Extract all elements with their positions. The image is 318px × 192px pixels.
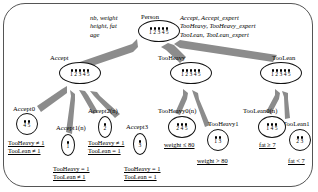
slot: 1 bbox=[149, 30, 153, 36]
node-label-person: Person bbox=[141, 13, 159, 20]
slot: 4 bbox=[82, 72, 86, 78]
node-accept1-slots: 1 bbox=[66, 144, 70, 150]
node-label-toolean: TooLean bbox=[272, 54, 295, 61]
slot: 5 bbox=[87, 72, 91, 78]
slot: 3 bbox=[138, 143, 142, 149]
node-accept3[interactable]: 3 bbox=[133, 133, 147, 155]
header-right-line-1: Accept, Accept_expert bbox=[180, 14, 256, 22]
slot: 3 bbox=[300, 139, 304, 145]
node-person-slots: 12345 bbox=[149, 30, 169, 36]
header-left-line-3: age bbox=[90, 31, 117, 39]
condition-accept0: TooHeavy ≠ 1 TooLean ≠ 1 bbox=[8, 139, 44, 155]
node-toolean0[interactable]: 145 bbox=[258, 116, 286, 138]
arrow-toolean-to-person bbox=[174, 40, 277, 62]
condition-tooheavy1: weight > 80 bbox=[197, 157, 228, 165]
node-tooheavy0[interactable]: 245 bbox=[168, 116, 196, 138]
condition-accept0-line-2: TooLean ≠ 1 bbox=[8, 147, 44, 155]
slot: 2 bbox=[275, 72, 279, 78]
slot: 1 bbox=[181, 72, 185, 78]
slot: 1 bbox=[214, 139, 218, 145]
header-left-attributes: nb, weight height, fat age bbox=[90, 14, 117, 39]
node-accept0-slots: 45 bbox=[23, 123, 31, 129]
slot: 3 bbox=[78, 72, 82, 78]
node-accept1[interactable]: 1 bbox=[61, 134, 75, 156]
node-label-accept: Accept bbox=[50, 54, 69, 61]
node-label-accept2: Accept2(n) bbox=[88, 107, 118, 114]
slot: 5 bbox=[184, 126, 188, 132]
condition-toolean0-line-1: fat ≥ 7 bbox=[259, 141, 276, 149]
condition-accept0-line-1: TooHeavy ≠ 1 bbox=[8, 139, 44, 147]
condition-tooheavy0: weight ≤ 80 bbox=[164, 141, 195, 149]
node-label-toolean1: TooLean1 bbox=[283, 120, 310, 127]
slot: 5 bbox=[288, 72, 292, 78]
slot: 2 bbox=[296, 139, 300, 145]
node-accept3-slots: 3 bbox=[138, 143, 142, 149]
node-toolean-slots: 12345 bbox=[271, 72, 291, 78]
slot: 1 bbox=[66, 144, 70, 150]
slot: 4 bbox=[283, 72, 287, 78]
header-right-line-3: TooLean, TooLean_expert bbox=[180, 31, 256, 39]
condition-accept3: TooHeavy = 1 TooLean = 1 bbox=[124, 165, 161, 181]
node-label-accept0: Accept0 bbox=[13, 105, 35, 112]
slot: 4 bbox=[193, 72, 197, 78]
node-toolean1[interactable]: 23 bbox=[289, 129, 311, 151]
slot: 2 bbox=[74, 72, 78, 78]
node-tooheavy-slots: 12345 bbox=[181, 72, 201, 78]
node-tooheavy[interactable]: 12345 bbox=[170, 62, 212, 84]
node-accept0[interactable]: 45 bbox=[16, 113, 38, 135]
node-label-accept3: Accept3 bbox=[126, 123, 148, 130]
header-left-line-2: height, fat bbox=[90, 22, 117, 30]
condition-accept2-line-1: TooHeavy ≠ 1 bbox=[88, 139, 124, 147]
node-label-tooheavy1: TooHeavy1 bbox=[208, 120, 239, 127]
node-tooheavy1-slots: 13 bbox=[214, 139, 222, 145]
condition-tooheavy1-line-1: weight > 80 bbox=[197, 157, 228, 165]
slot: 3 bbox=[157, 30, 161, 36]
condition-accept1: TooHeavy = 1 TooLean ≠ 1 bbox=[53, 165, 90, 181]
condition-accept1-line-2: TooLean ≠ 1 bbox=[53, 173, 90, 181]
header-right-attributes: Accept, Accept_expert TooHeavy, TooHeavy… bbox=[180, 14, 256, 39]
node-toolean1-slots: 23 bbox=[296, 139, 304, 145]
slot: 4 bbox=[23, 123, 27, 129]
node-tooheavy1[interactable]: 13 bbox=[207, 129, 229, 151]
slot: 4 bbox=[270, 126, 274, 132]
header-left-line-1: nb, weight bbox=[90, 14, 117, 22]
node-label-accept1: Accept1(n) bbox=[56, 124, 86, 131]
condition-toolean1: fat < 7 bbox=[288, 157, 305, 165]
node-accept-slots: 12345 bbox=[70, 72, 90, 78]
node-accept2-slots: 2 bbox=[103, 126, 107, 132]
slot: 5 bbox=[166, 30, 170, 36]
condition-toolean1-line-1: fat < 7 bbox=[288, 157, 305, 165]
slot: 5 bbox=[27, 123, 31, 129]
node-toolean0-slots: 145 bbox=[266, 126, 278, 132]
slot: 5 bbox=[274, 126, 278, 132]
slot: 2 bbox=[103, 126, 107, 132]
arrow-accept0-to-accept bbox=[37, 86, 67, 112]
slot: 4 bbox=[161, 30, 165, 36]
node-label-tooheavy: TooHeavy bbox=[158, 54, 185, 61]
slot: 5 bbox=[198, 72, 202, 78]
slot: 3 bbox=[279, 72, 283, 78]
diagram-canvas: nb, weight height, fat age Accept, Accep… bbox=[0, 0, 318, 192]
slot: 1 bbox=[271, 72, 275, 78]
arrow-toolean1-to-toolean bbox=[282, 91, 290, 119]
slot: 1 bbox=[70, 72, 74, 78]
slot: 2 bbox=[153, 30, 157, 36]
node-tooheavy0-slots: 245 bbox=[176, 126, 188, 132]
slot: 2 bbox=[185, 72, 189, 78]
node-toolean[interactable]: 12345 bbox=[260, 62, 302, 84]
header-right-line-2: TooHeavy, TooHeavy_expert bbox=[180, 22, 256, 30]
condition-accept2: TooHeavy ≠ 1 TooLean = 1 bbox=[88, 139, 124, 155]
condition-accept3-line-1: TooHeavy = 1 bbox=[124, 165, 161, 173]
condition-accept3-line-2: TooLean = 1 bbox=[124, 173, 161, 181]
condition-tooheavy0-line-1: weight ≤ 80 bbox=[164, 141, 195, 149]
node-accept2[interactable]: 2 bbox=[98, 116, 112, 138]
node-person[interactable]: 12345 bbox=[138, 20, 180, 42]
slot: 3 bbox=[189, 72, 193, 78]
condition-accept1-line-1: TooHeavy = 1 bbox=[53, 165, 90, 173]
condition-accept2-line-2: TooLean = 1 bbox=[88, 147, 124, 155]
slot: 1 bbox=[266, 126, 270, 132]
slot: 4 bbox=[180, 126, 184, 132]
node-accept[interactable]: 12345 bbox=[59, 62, 101, 84]
slot: 3 bbox=[218, 139, 222, 145]
condition-toolean0: fat ≥ 7 bbox=[259, 141, 276, 149]
